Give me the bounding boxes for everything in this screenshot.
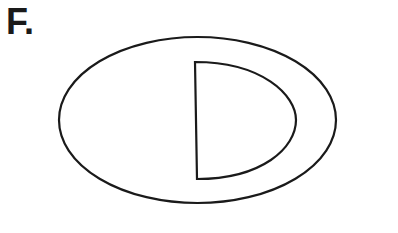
inner-d-shape bbox=[195, 62, 296, 179]
diagram-canvas bbox=[0, 0, 398, 233]
